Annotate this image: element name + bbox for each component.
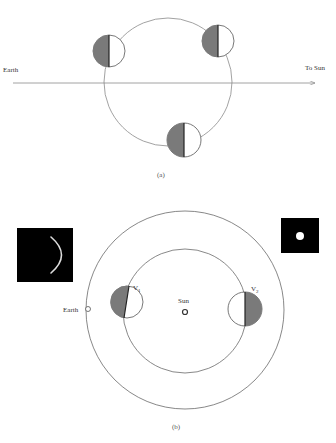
crescent-venus-panel xyxy=(17,228,73,282)
label-earth-a: Earth xyxy=(3,66,19,74)
label-v1: V1 xyxy=(133,284,141,293)
diagram-b: Sun Earth V1 V2 (b) xyxy=(17,211,319,431)
moon-bottom xyxy=(167,123,201,157)
earth-icon xyxy=(86,307,91,312)
venus-v2 xyxy=(228,292,262,326)
label-v2: V2 xyxy=(251,285,259,294)
label-to-sun: To Sun xyxy=(305,64,325,72)
caption-b: (b) xyxy=(172,423,181,431)
venus-phases-figure: Earth To Sun (a) Sun Earth V1 V2 xyxy=(0,0,336,443)
sun-icon xyxy=(183,310,188,315)
label-earth-b: Earth xyxy=(63,306,79,314)
caption-a: (a) xyxy=(157,171,165,179)
moon-left xyxy=(93,35,125,67)
label-sun: Sun xyxy=(178,297,189,305)
diagram-a: Earth To Sun (a) xyxy=(3,18,325,179)
full-venus-panel xyxy=(281,218,319,253)
moon-top-right xyxy=(202,25,234,57)
